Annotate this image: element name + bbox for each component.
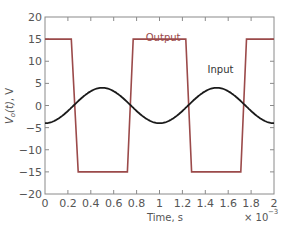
x-tick-label: 1 [156, 197, 163, 210]
y-tick-label: 10 [28, 55, 42, 68]
y-tick-label: 0 [35, 100, 42, 113]
svg-text:−3: −3 [268, 208, 278, 216]
y-tick-label: −15 [19, 166, 42, 179]
axis-ticks [45, 17, 274, 194]
x-tick-label: 1.8 [242, 197, 260, 210]
input-series-line [45, 88, 274, 123]
x-tick-labels: 00.20.40.60.811.21.41.61.82 [42, 197, 278, 210]
input-annotation: Input [208, 64, 234, 75]
plot-area: −20−15−10−505101520 00.20.40.60.811.21.4… [19, 11, 278, 210]
x-tick-label: 1.4 [197, 197, 215, 210]
x-axis-multiplier: × 10 −3 [244, 208, 278, 223]
y-tick-label: −20 [19, 188, 42, 201]
x-tick-label: 1.6 [219, 197, 237, 210]
y-tick-label: 5 [35, 77, 42, 90]
x-tick-label: 0.4 [82, 197, 100, 210]
chart: −20−15−10−505101520 00.20.40.60.811.21.4… [0, 0, 291, 236]
plot-frame [45, 17, 274, 194]
y-axis-title: Vo(t), V [4, 88, 17, 124]
x-tick-label: 0.6 [105, 197, 123, 210]
x-tick-label: 1.2 [174, 197, 192, 210]
y-tick-label: −5 [26, 122, 42, 135]
x-axis-title: Time, s [146, 212, 183, 223]
x-tick-label: 0.2 [59, 197, 77, 210]
y-tick-label: 20 [28, 11, 42, 24]
y-tick-label: 15 [28, 33, 42, 46]
x-tick-label: 0 [42, 197, 49, 210]
y-tick-labels: −20−15−10−505101520 [19, 11, 42, 201]
svg-text:× 10: × 10 [244, 212, 268, 223]
y-tick-label: −10 [19, 144, 42, 157]
output-series-line [45, 39, 274, 172]
x-tick-label: 0.8 [128, 197, 146, 210]
output-annotation: Output [146, 32, 181, 43]
